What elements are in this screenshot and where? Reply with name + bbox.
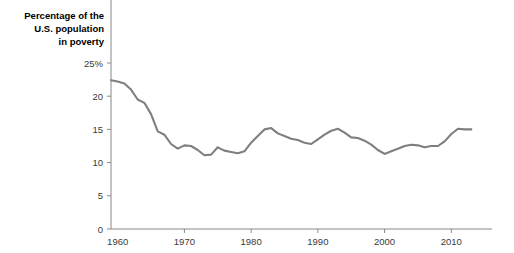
x-tick-label: 1980 (241, 236, 262, 247)
y-tick-label: 0 (98, 224, 103, 235)
x-axis-ticks: 196019701980199020002010 (107, 229, 462, 247)
x-tick-label: 2000 (374, 236, 395, 247)
x-tick-label: 1960 (107, 236, 128, 247)
y-tick-label: 10 (92, 157, 103, 168)
y-tick-label: 25% (84, 58, 104, 69)
y-tick-label: 5 (98, 190, 103, 201)
y-tick-label: 15 (92, 124, 103, 135)
y-tick-label: 20 (92, 91, 103, 102)
chart-plot-area: 0510152025% 196019701980199020002010 (0, 0, 514, 253)
poverty-rate-line (111, 80, 471, 155)
x-tick-label: 2010 (441, 236, 462, 247)
y-axis-ticks: 0510152025% (84, 58, 111, 235)
axes (111, 0, 492, 229)
poverty-rate-chart-figure: Percentage of the U.S. population in pov… (0, 0, 514, 253)
x-tick-label: 1970 (174, 236, 195, 247)
x-tick-label: 1990 (307, 236, 328, 247)
